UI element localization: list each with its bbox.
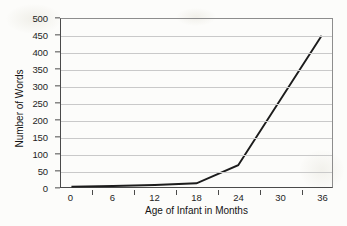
x-tick-mark <box>218 190 219 195</box>
x-tick-mark <box>92 190 93 195</box>
x-tick-label: 12 <box>149 192 160 203</box>
y-tick-label: 100 <box>32 149 48 160</box>
gridline-horizontal <box>61 121 332 122</box>
x-tick-label: 36 <box>317 192 328 203</box>
x-tick-label: 0 <box>68 192 73 203</box>
x-axis-title: Age of Infant in Months <box>60 205 333 216</box>
y-tick-label: 250 <box>32 98 48 109</box>
y-tick-label: 0 <box>43 183 48 194</box>
data-series-line <box>61 19 332 187</box>
gridline-horizontal <box>61 87 332 88</box>
y-tick-label: 350 <box>32 64 48 75</box>
gridline-horizontal <box>61 138 332 139</box>
y-tick-label: 500 <box>32 13 48 24</box>
y-tick-label: 300 <box>32 81 48 92</box>
x-tick-label: 18 <box>191 192 202 203</box>
gridline-horizontal <box>61 104 332 105</box>
plot-area <box>60 18 333 188</box>
y-tick-label: 450 <box>32 30 48 41</box>
x-tick-mark <box>260 190 261 195</box>
gridline-horizontal <box>61 70 332 71</box>
y-axis-tick-labels: 050100150200250300350400450500 <box>0 18 56 188</box>
y-tick-label: 150 <box>32 132 48 143</box>
x-axis-tick-labels: 061218243036 <box>60 190 333 206</box>
y-tick-label: 400 <box>32 47 48 58</box>
x-tick-label: 30 <box>275 192 286 203</box>
x-tick-mark <box>302 190 303 195</box>
x-tick-mark <box>134 190 135 195</box>
gridline-horizontal <box>61 172 332 173</box>
x-tick-mark <box>176 190 177 195</box>
x-tick-label: 6 <box>110 192 115 203</box>
y-tick-label: 50 <box>38 166 48 177</box>
x-tick-label: 24 <box>233 192 244 203</box>
line-chart-figure: Number of Words 050100150200250300350400… <box>0 0 347 226</box>
gridline-horizontal <box>61 53 332 54</box>
y-tick-label: 200 <box>32 115 48 126</box>
gridline-horizontal <box>61 155 332 156</box>
gridline-horizontal <box>61 36 332 37</box>
